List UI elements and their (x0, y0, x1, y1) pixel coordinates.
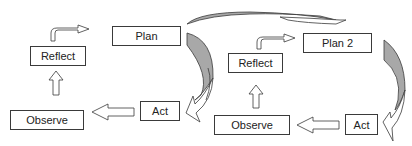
curved-arrow-head-plan-to-plan2 (280, 17, 346, 24)
node-plan-1: Plan (112, 26, 181, 46)
node-label: Observe (26, 114, 68, 126)
node-label: Act (152, 105, 168, 117)
node-label: Reflect (238, 57, 272, 69)
node-plan-2: Plan 2 (303, 33, 372, 53)
node-act-1: Act (140, 101, 180, 121)
left-arrow-act-to-observe (92, 104, 134, 120)
node-label: Reflect (41, 50, 75, 62)
node-act-2: Act (345, 114, 378, 135)
up-arrow-observe-to-reflect (49, 71, 63, 95)
node-observe-1: Observe (10, 110, 84, 130)
node-label: Observe (231, 119, 273, 131)
node-reflect-2: Reflect (228, 53, 283, 73)
node-reflect-1: Reflect (30, 46, 86, 66)
bent-arrow-reflect-to-plan (51, 25, 89, 41)
up-arrow-observe2-to-reflect2 (249, 85, 263, 108)
node-label: Plan 2 (322, 37, 353, 49)
node-label: Act (354, 119, 370, 131)
node-observe-2: Observe (214, 115, 290, 135)
bent-arrow-reflect2-to-plan2 (257, 34, 295, 49)
left-arrow-act2-to-observe2 (297, 117, 339, 133)
node-label: Plan (135, 30, 157, 42)
